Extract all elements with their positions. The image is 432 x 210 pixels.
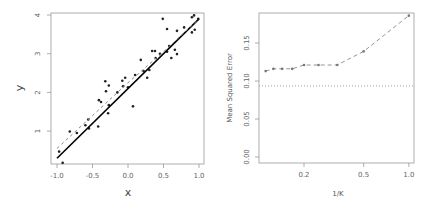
x-axis-title: x (125, 186, 132, 199)
data-point (68, 130, 71, 133)
mse-point (336, 64, 339, 67)
data-point (98, 99, 101, 102)
data-point (191, 16, 194, 19)
data-point (76, 132, 79, 135)
mse-point (272, 68, 275, 71)
y-tick-label: 0.15 (243, 35, 251, 51)
data-point (170, 57, 173, 60)
y-tick-label: 0.00 (243, 149, 251, 165)
data-point (107, 112, 110, 115)
data-point (176, 53, 179, 56)
mse-point (291, 68, 294, 71)
left-scatter-panel: -1.0-0.50.00.51.01234xy (0, 0, 216, 210)
data-point (61, 162, 64, 165)
x-tick-label: 0.2 (298, 171, 309, 179)
scatter-plot: -1.0-0.50.00.51.01234xy (0, 0, 216, 210)
knn-fit-line (57, 19, 199, 149)
data-point (100, 101, 103, 104)
y-tick-label: 0.05 (243, 111, 251, 127)
data-point (183, 26, 186, 29)
data-point (174, 49, 177, 52)
y-tick-label: 1 (34, 129, 42, 133)
y-axis-title: Mean Squared Error (226, 53, 234, 123)
data-point (191, 31, 194, 34)
data-point (97, 125, 100, 128)
x-tick-label: -0.5 (86, 172, 100, 180)
true-regression-line (57, 19, 199, 158)
mse-point (362, 50, 365, 53)
y-tick-label: 4 (34, 12, 42, 17)
y-tick-label: 3 (34, 51, 42, 55)
data-point (151, 50, 154, 53)
data-point (121, 79, 124, 82)
x-tick-label: 1.0 (193, 172, 204, 180)
data-point (116, 91, 119, 94)
data-point (176, 30, 179, 33)
mse-line-plot: 0.20.51.00.000.050.100.151/KMean Squared… (216, 0, 432, 210)
x-tick-label: 0.5 (158, 172, 169, 180)
x-tick-label: -1.0 (50, 172, 64, 180)
data-point (104, 80, 107, 83)
data-point (139, 59, 142, 62)
data-point (134, 74, 137, 77)
right-mse-panel: 0.20.51.00.000.050.100.151/KMean Squared… (216, 0, 432, 210)
x-axis-title: 1/K (332, 190, 344, 198)
mse-point (408, 14, 411, 17)
data-point (166, 28, 169, 31)
x-tick-label: 1.0 (403, 171, 414, 179)
data-point (84, 124, 87, 127)
mse-point (303, 64, 306, 67)
data-point (193, 28, 196, 31)
mse-point (281, 68, 284, 71)
y-tick-label: 0.10 (243, 73, 251, 89)
x-tick-label: 0.5 (358, 171, 369, 179)
data-point (132, 105, 135, 108)
y-axis-title: y (13, 84, 26, 91)
data-point (146, 76, 149, 79)
knn-mse-line (266, 16, 409, 72)
mse-point (264, 70, 267, 73)
data-point (154, 50, 157, 53)
data-point (161, 18, 164, 21)
data-point (105, 90, 108, 93)
mse-point (317, 64, 320, 67)
data-point (58, 150, 61, 153)
data-point (193, 14, 196, 17)
data-point (108, 84, 111, 87)
plot-frame (259, 13, 414, 163)
data-point (124, 76, 127, 79)
x-tick-label: 0.0 (122, 172, 133, 180)
y-tick-label: 2 (34, 90, 42, 94)
